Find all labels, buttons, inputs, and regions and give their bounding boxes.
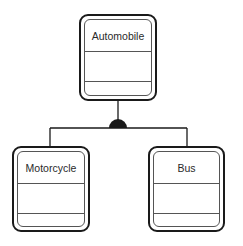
class-attributes-section — [18, 184, 84, 214]
class-operations-section — [154, 214, 219, 226]
class-box-inner: Motorcycle — [17, 151, 85, 227]
class-name: Bus — [154, 152, 219, 184]
class-diagram: Automobile Motorcycle Bus — [0, 0, 243, 246]
class-name: Motorcycle — [18, 152, 84, 184]
junction-semicircle-icon — [109, 119, 127, 128]
class-name: Automobile — [85, 20, 151, 52]
class-operations-section — [18, 214, 84, 226]
class-attributes-section — [85, 52, 151, 82]
class-box-inner: Bus — [153, 151, 220, 227]
class-box-motorcycle[interactable]: Motorcycle — [12, 146, 90, 232]
class-box-inner: Automobile — [84, 19, 152, 96]
class-operations-section — [85, 82, 151, 95]
class-box-automobile[interactable]: Automobile — [79, 14, 157, 101]
class-box-bus[interactable]: Bus — [148, 146, 225, 232]
class-attributes-section — [154, 184, 219, 214]
